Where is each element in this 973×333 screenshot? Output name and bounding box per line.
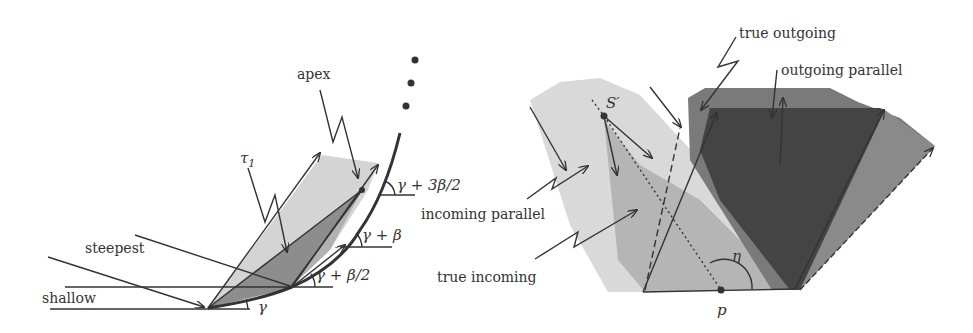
s-prime-label: S′ bbox=[606, 94, 620, 112]
ellipsis-dot-3 bbox=[403, 103, 410, 110]
ellipsis-dot-2 bbox=[408, 80, 415, 87]
true-outgoing-label: true outgoing bbox=[739, 25, 836, 41]
diagram-canvas: apex τ1 steepest shallow γ γ + β/2 γ + β… bbox=[0, 0, 973, 333]
angle-gamma-3beta-half-label: γ + 3β/2 bbox=[397, 176, 461, 194]
ellipsis-dot-1 bbox=[412, 57, 419, 64]
steepest-label: steepest bbox=[85, 240, 145, 256]
angle-gamma-beta-label: γ + β bbox=[362, 226, 402, 244]
p-label: p bbox=[717, 301, 727, 319]
apex-label: apex bbox=[297, 66, 331, 82]
incoming-parallel-label: incoming parallel bbox=[421, 206, 546, 222]
shallow-label: shallow bbox=[42, 290, 96, 306]
true-incoming-label: true incoming bbox=[437, 269, 537, 285]
outgoing-parallel-label: outgoing parallel bbox=[781, 62, 903, 78]
angle-arc-3beta bbox=[385, 181, 395, 195]
tau1-label: τ1 bbox=[240, 149, 255, 170]
right-panel: true outgoing outgoing parallel incoming… bbox=[421, 25, 935, 319]
p-point bbox=[718, 287, 725, 294]
apex-point bbox=[359, 187, 365, 193]
angle-gamma-label: γ bbox=[258, 298, 267, 316]
angle-gamma-beta-half-label: γ + β/2 bbox=[316, 266, 370, 284]
eta-label: η bbox=[732, 247, 741, 265]
left-panel: apex τ1 steepest shallow γ γ + β/2 γ + β… bbox=[42, 57, 461, 317]
